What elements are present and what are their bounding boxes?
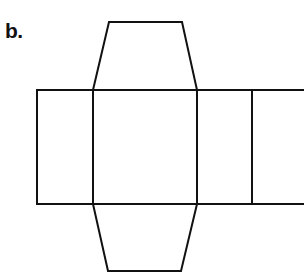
right-rectangle-1 bbox=[197, 90, 252, 204]
bottom-trapezoid bbox=[93, 204, 197, 271]
prism-net-diagram bbox=[0, 0, 304, 272]
center-rectangle bbox=[93, 90, 197, 204]
top-trapezoid bbox=[93, 22, 197, 90]
right-rectangle-2 bbox=[252, 90, 304, 204]
left-rectangle bbox=[37, 90, 93, 204]
